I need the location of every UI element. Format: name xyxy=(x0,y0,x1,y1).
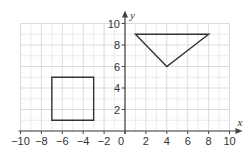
y-axis-label: y xyxy=(129,9,135,21)
x-tick-label: 4 xyxy=(164,135,170,147)
x-tick-label: 6 xyxy=(185,135,191,147)
x-tick-label: −4 xyxy=(77,135,90,147)
x-axis-arrow-icon xyxy=(236,128,243,134)
x-axis-label: x xyxy=(237,116,243,128)
y-axis-arrow-icon xyxy=(122,11,128,18)
x-tick-label: −2 xyxy=(98,135,111,147)
y-tick-label: 2 xyxy=(114,104,120,116)
triangle-shape xyxy=(135,34,208,66)
y-tick-label: 8 xyxy=(114,39,120,51)
x-tick-label: −6 xyxy=(56,135,69,147)
y-tick-label: 10 xyxy=(108,18,120,30)
x-tick-label: −10 xyxy=(11,135,30,147)
x-tick-label: 8 xyxy=(206,135,212,147)
x-tick-label: −8 xyxy=(35,135,48,147)
y-tick-label: 6 xyxy=(114,61,120,73)
coordinate-grid: −10−8−6−4−20246810246810xy xyxy=(0,0,250,148)
tick-labels: −10−8−6−4−20246810246810xy xyxy=(11,9,242,148)
x-tick-label: 0 xyxy=(118,135,124,147)
x-tick-label: 10 xyxy=(223,135,235,147)
x-tick-label: 2 xyxy=(143,135,149,147)
y-tick-label: 4 xyxy=(114,82,120,94)
